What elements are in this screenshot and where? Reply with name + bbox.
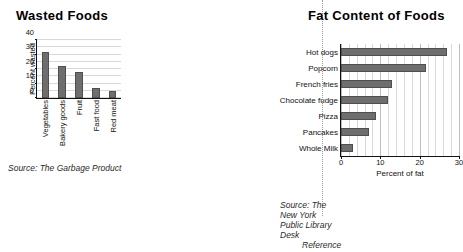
y-axis-tick-label: 30 xyxy=(26,43,34,51)
x-axis-tick-label: 0 xyxy=(339,159,343,167)
wasted-foods-plot-area: Percent wasted 010203040 VegetablesBaker… xyxy=(36,40,121,99)
y-axis-tick-label: 10 xyxy=(26,72,34,80)
bar: French fries xyxy=(341,80,392,89)
y-axis-category-label: French fries xyxy=(296,79,338,88)
bar: Pancakes xyxy=(341,128,369,137)
bar: Bakery goods xyxy=(58,66,66,98)
gridline xyxy=(37,61,121,62)
wasted-foods-chart-panel: Wasted Foods Percent wasted 010203040 Ve… xyxy=(0,0,160,216)
fat-content-source-line1: Source: The New York Public Library Desk xyxy=(280,200,332,240)
gridline xyxy=(451,44,452,156)
bar: Red meat xyxy=(109,91,117,98)
gridline xyxy=(37,68,121,69)
bar: Chocolate fudge xyxy=(341,96,388,105)
x-axis-tick-label: 10 xyxy=(376,159,384,167)
gridline xyxy=(428,44,429,156)
fat-content-chart-title: Fat Content of Foods xyxy=(308,8,445,23)
bar: Fruit xyxy=(75,72,83,98)
x-axis-category-label: Fast food xyxy=(91,100,100,131)
x-axis-tick-mark xyxy=(380,156,381,159)
y-axis-tick-mark xyxy=(35,39,38,40)
wasted-foods-source-note: Source: The Garbage Product xyxy=(8,163,121,173)
y-axis-tick-mark xyxy=(35,97,38,98)
y-axis-tick-label: 40 xyxy=(26,29,34,37)
y-axis-tick-label: 20 xyxy=(26,58,34,66)
x-axis-tick-label: 30 xyxy=(455,159,463,167)
fat-content-source-note: Source: The New York Public Library Desk… xyxy=(280,190,341,252)
gridline xyxy=(404,44,405,156)
x-axis-category-label: Vegetables xyxy=(41,100,50,137)
y-axis-category-label: Popcorn xyxy=(308,63,338,72)
y-axis-category-label: Pizza xyxy=(318,111,338,120)
gridline xyxy=(420,44,421,156)
gridline xyxy=(412,44,413,156)
fat-content-chart-panel: Fat Content of Foods 0102030 Hot dogsPop… xyxy=(150,0,330,216)
x-axis-tick-mark xyxy=(341,156,342,159)
bar: Hot dogs xyxy=(341,48,447,57)
gridline xyxy=(443,44,444,156)
y-axis-tick-label: 0 xyxy=(30,87,34,95)
x-axis-category-label: Bakery goods xyxy=(58,100,67,146)
fat-content-x-axis-title: Percent of fat xyxy=(376,169,424,178)
y-axis-category-label: Chocolate fudge xyxy=(280,95,338,104)
x-axis-category-label: Fruit xyxy=(74,100,83,115)
gridline xyxy=(388,44,389,156)
y-axis-category-label: Hot dogs xyxy=(306,47,338,56)
y-axis-tick-mark xyxy=(35,83,38,84)
gridline xyxy=(37,54,121,55)
gridline xyxy=(37,39,121,40)
fat-content-source-line2: Reference xyxy=(280,240,341,250)
y-axis-tick-mark xyxy=(35,68,38,69)
bar: Pizza xyxy=(341,112,376,121)
y-axis-category-label: Whole Milk xyxy=(299,143,338,152)
y-axis-category-label: Pancakes xyxy=(303,127,338,136)
bar: Popcorn xyxy=(341,64,426,73)
gridline xyxy=(37,46,121,47)
wasted-foods-chart-title: Wasted Foods xyxy=(16,8,108,23)
bar: Fast food xyxy=(92,88,100,98)
x-axis-tick-label: 20 xyxy=(415,159,423,167)
x-axis-category-label: Red meat xyxy=(108,100,117,133)
gridline xyxy=(435,44,436,156)
bar: Whole Milk xyxy=(341,144,353,153)
y-axis-tick-mark xyxy=(35,54,38,55)
fat-content-plot-area: 0102030 Hot dogsPopcornFrench friesChoco… xyxy=(340,44,459,157)
gridline xyxy=(459,44,460,156)
x-axis-tick-mark xyxy=(459,156,460,159)
x-axis-tick-mark xyxy=(420,156,421,159)
gridline xyxy=(396,44,397,156)
bar: Vegetables xyxy=(42,52,50,98)
